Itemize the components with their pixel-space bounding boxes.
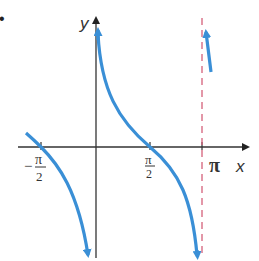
cot-branch-right [206, 32, 211, 72]
y-axis-label: y [79, 14, 90, 33]
cotangent-graph: • y x − π 2 π 2 π [0, 0, 259, 261]
x-axis-label: x [235, 157, 245, 176]
tick-label-pi-full: π [209, 154, 220, 176]
bullet-marker: • [0, 10, 5, 27]
tick-label-neg-pi: π [35, 152, 42, 167]
tick-label-neg-sign: − [24, 158, 32, 174]
tick-label-neg-2: 2 [36, 169, 43, 184]
tick-label-2: 2 [146, 167, 152, 181]
cot-branch-middle-bottom-arrow [197, 250, 198, 257]
cot-branch-middle [98, 34, 197, 255]
tick-label-pi: π [145, 152, 152, 167]
